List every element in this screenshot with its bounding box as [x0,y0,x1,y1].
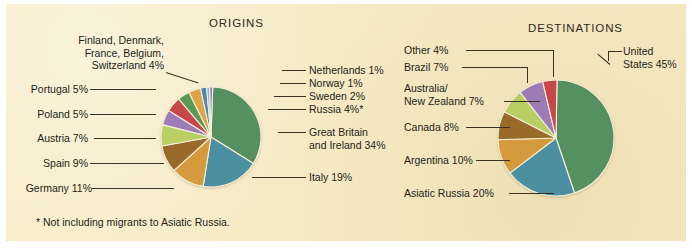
panel-destinations: DESTINATIONS United States 45%Asiatic Ru… [398,4,686,241]
figure-canvas: ORIGINS Great Britain and Ireland 34%Ita… [6,4,686,241]
label-origins-netherlands: Netherlands 1% [309,64,384,77]
label-destinations-brazil: Brazil 7% [404,61,448,74]
leader-line-nordic-group [166,72,199,83]
chart-title-origins: ORIGINS [209,17,264,29]
label-origins-austria: Austria 7% [14,132,88,145]
leader-line-australia-nz [504,101,540,102]
leader-line-canada [466,127,510,128]
pie-destinations-svg: United States 45%Asiatic Russia 20%Argen… [495,77,617,199]
leader-line-norway [280,83,306,84]
leader-line-brazil [462,67,528,68]
leader-line-germany [92,188,174,189]
leader-line-brazil-vertical [527,67,528,83]
leader-line-poland [90,114,156,115]
label-destinations-argentina: Argentina 10% [404,154,473,167]
label-destinations-asiatic-russia: Asiatic Russia 20% [404,187,494,200]
leader-line-other [466,50,554,51]
label-line-2: States 45% [623,58,677,71]
label-destinations-other: Other 4% [404,44,448,57]
label-line-2: and Ireland 34% [309,139,385,152]
label-line-1: Finland, Denmark, [22,34,164,47]
leader-line-great-britain [278,132,306,133]
label-destinations-united-states: United States 45% [623,45,677,70]
label-line-1: United [623,45,677,58]
leader-line-united-states-v [608,51,609,61]
label-line-1: Australia/ [404,82,484,95]
leader-line-asiatic-russia [509,193,554,194]
leader-line-argentina [476,160,510,161]
leader-line-other-vertical [553,50,554,77]
label-origins-sweden: Sweden 2% [309,90,365,103]
label-line-2: New Zealand 7% [404,95,484,108]
label-origins-spain: Spain 9% [14,157,88,170]
label-destinations-canada: Canada 8% [404,121,459,134]
label-origins-nordic-group: Finland, Denmark, France, Belgium, Switz… [22,34,164,72]
label-origins-great-britain: Great Britain and Ireland 34% [309,126,385,151]
label-origins-norway: Norway 1% [309,77,363,90]
label-origins-italy: Italy 19% [309,171,352,184]
label-origins-russia: Russia 4%* [309,103,363,116]
label-origins-portugal: Portugal 5% [14,83,88,96]
label-line-2: France, Belgium, [22,47,164,60]
leader-line-sweden [274,96,306,97]
leader-line-spain [90,163,164,164]
label-line-3: Switzerland 4% [22,59,164,72]
label-line-1: Great Britain [309,126,385,139]
leader-line-italy [252,177,306,178]
label-destinations-australia-nz: Australia/ New Zealand 7% [404,82,484,107]
chart-title-destinations: DESTINATIONS [528,22,623,34]
pie-chart-origins: Great Britain and Ireland 34%Italy 19%Ge… [158,84,264,190]
leader-line-austria [94,138,156,139]
leader-line-netherlands [282,70,306,71]
footnote-asiatic-russia: * Not including migrants to Asiatic Russ… [36,216,230,228]
leader-line-portugal [90,89,156,90]
label-origins-poland: Poland 5% [14,108,88,121]
label-origins-germany: Germany 11% [6,182,92,195]
panel-origins: ORIGINS Great Britain and Ireland 34%Ita… [6,4,398,241]
leader-line-united-states-h [608,51,622,52]
leader-line-russia [268,109,306,110]
pie-chart-destinations: United States 45%Asiatic Russia 20%Argen… [495,77,617,199]
pie-origins-svg: Great Britain and Ireland 34%Italy 19%Ge… [158,84,264,190]
